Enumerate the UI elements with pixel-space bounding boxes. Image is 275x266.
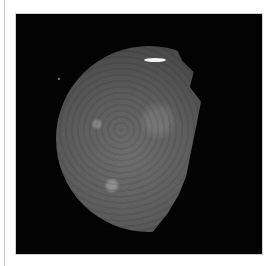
moon-photo	[16, 14, 262, 254]
page-edge-line	[4, 0, 5, 266]
moon-disc	[56, 46, 242, 232]
bright-limb-highlight	[144, 58, 166, 62]
